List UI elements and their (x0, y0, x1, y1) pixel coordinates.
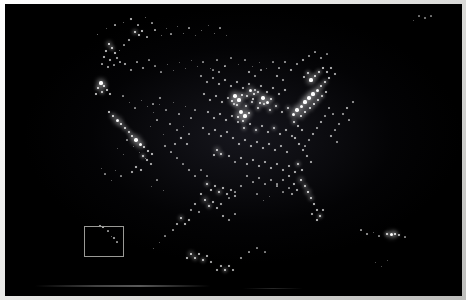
city-light-point (221, 101, 223, 103)
city-light-point (190, 253, 193, 256)
city-light-point (134, 138, 137, 141)
city-light-point (173, 70, 174, 71)
city-light-point (167, 64, 168, 65)
city-light-point (216, 59, 217, 60)
city-light-point (306, 155, 308, 157)
city-light-point (282, 179, 283, 180)
city-light-point (300, 115, 303, 118)
city-light-point (237, 98, 240, 101)
city-light-point (252, 181, 253, 182)
city-light-point (180, 137, 182, 139)
city-light-point (291, 135, 293, 137)
city-light-point (307, 191, 310, 194)
city-light-point (214, 185, 216, 187)
city-light-point (212, 77, 213, 78)
city-light-point (237, 121, 239, 123)
city-light-point (200, 75, 201, 76)
city-light-point (228, 155, 230, 157)
city-light-point (212, 69, 213, 70)
city-light-point (242, 120, 244, 122)
city-light-point (232, 137, 234, 139)
city-light-point (128, 131, 130, 133)
city-light-point (238, 143, 240, 145)
city-light-point (108, 111, 110, 113)
city-light-point (198, 211, 199, 212)
city-light-point (216, 207, 218, 209)
city-light-point (325, 91, 327, 93)
night-lights-map[interactable]: United States at Night Composite satelli… (5, 4, 462, 296)
city-light-point (188, 27, 189, 28)
city-light-point (191, 60, 192, 61)
city-light-point (153, 248, 154, 249)
city-light-point (311, 92, 314, 95)
city-light-point (324, 81, 326, 83)
city-light-point (233, 103, 235, 105)
city-light-point (142, 67, 143, 68)
city-light-point (280, 145, 282, 147)
city-light-point (288, 165, 290, 167)
city-light-point (219, 113, 221, 115)
city-light-point (321, 95, 323, 97)
city-light-point (228, 265, 230, 267)
city-light-point (309, 78, 312, 81)
city-light-point (237, 116, 240, 119)
city-light-point (242, 87, 244, 89)
city-light-point (123, 44, 124, 45)
city-light-point (202, 259, 204, 261)
city-light-point (424, 17, 425, 18)
city-light-point (278, 93, 280, 95)
city-light-point (330, 135, 332, 137)
city-light-point (225, 119, 227, 121)
hawaii-inset-box[interactable] (84, 226, 124, 257)
city-light-point (303, 76, 305, 78)
city-light-point (150, 163, 151, 164)
city-light-point (101, 63, 102, 64)
city-light-point (123, 154, 124, 155)
city-light-point (206, 81, 208, 83)
city-light-point (236, 81, 238, 83)
city-light-point (243, 127, 245, 129)
city-light-point (301, 169, 303, 171)
city-light-point (293, 121, 295, 123)
city-light-point (203, 93, 205, 95)
city-light-point (186, 143, 188, 145)
city-light-point (266, 101, 269, 104)
city-light-point (241, 94, 244, 97)
city-light-point (240, 257, 241, 258)
city-light-point (198, 253, 200, 255)
city-light-point (249, 123, 251, 125)
city-light-point (194, 109, 195, 110)
city-light-point (404, 236, 405, 237)
city-light-point (190, 209, 191, 210)
city-light-point (258, 177, 259, 178)
city-light-point (159, 242, 160, 243)
city-light-point (320, 57, 321, 58)
city-light-point (124, 63, 126, 65)
city-light-point (224, 66, 225, 67)
city-light-point (346, 107, 348, 109)
city-light-point (282, 191, 283, 192)
city-light-point (266, 68, 267, 69)
city-light-point (145, 17, 146, 18)
city-light-point (226, 131, 228, 133)
hawaii-inset-label (85, 227, 86, 228)
city-light-point (115, 170, 116, 171)
city-light-point (108, 43, 111, 46)
city-light-point (294, 137, 296, 139)
city-light-point (130, 69, 131, 70)
city-light-point (112, 115, 115, 118)
city-light-point (200, 193, 202, 195)
city-light-point (332, 113, 333, 114)
city-light-point (134, 31, 136, 33)
city-light-point (267, 131, 269, 133)
city-light-point (210, 261, 212, 263)
city-light-point (243, 114, 246, 117)
city-light-point (257, 107, 259, 109)
city-light-point (103, 85, 106, 88)
city-light-point (104, 173, 105, 174)
city-light-point (120, 175, 121, 176)
city-light-point (430, 15, 431, 16)
city-light-point (153, 112, 154, 113)
city-light-point (160, 71, 161, 72)
city-light-point (238, 64, 239, 65)
